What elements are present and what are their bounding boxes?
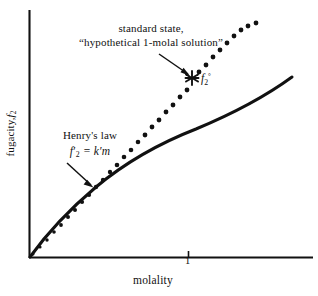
standard-state-annotation: standard state, “hypothetical 1-molal so… — [56, 22, 246, 49]
henrys-law-arrow-icon — [67, 163, 94, 188]
standard-state-line-2: “hypothetical 1-molal solution” — [56, 36, 246, 49]
standard-state-arrow-icon — [159, 54, 190, 76]
y-axis-label: fugacity,f2 — [4, 83, 19, 183]
henrys-law-title: Henry's law — [63, 129, 117, 141]
henrys-law-formula-rhs: k′m — [94, 145, 110, 157]
y-axis-label-subscript: 2 — [9, 110, 18, 114]
henrys-law-formula: f′2 = k′m — [42, 145, 138, 159]
x-axis-label: molality — [133, 274, 173, 288]
standard-state-line-1: standard state, — [118, 22, 183, 34]
y-axis-label-text: fugacity, — [4, 117, 16, 156]
y-axis-label-symbol: f — [4, 114, 16, 117]
henrys-law-formula-subscript: 2 — [76, 150, 80, 159]
standard-state-symbol-label: f2° — [201, 72, 211, 87]
henrys-law-annotation: Henry's law f′2 = k′m — [42, 129, 138, 159]
fugacity-curve — [30, 77, 292, 257]
fugacity-molality-figure: fugacity,f2 molality 1 standard state, “… — [0, 0, 318, 296]
henrys-law-formula-equals: = — [83, 145, 91, 157]
standard-state-symbol-superscript: ° — [208, 72, 211, 80]
x-axis-tick-label-1: 1 — [185, 255, 190, 267]
